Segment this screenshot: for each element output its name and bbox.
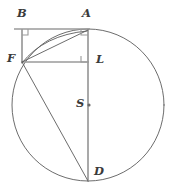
arc-FA xyxy=(22,31,87,63)
point-label-B: B xyxy=(17,8,27,20)
point-label-A: A xyxy=(82,8,91,20)
right-angle-marker-B xyxy=(22,29,28,35)
point-label-F: F xyxy=(7,53,15,65)
point-label-D: D xyxy=(94,166,104,178)
right-angle-marker-L xyxy=(81,56,88,62)
figure-canvas xyxy=(0,0,173,194)
center-dot xyxy=(87,103,90,106)
segment-FD xyxy=(22,62,88,181)
point-label-L: L xyxy=(96,54,104,66)
point-label-S: S xyxy=(76,98,84,110)
segment-FA xyxy=(22,30,88,62)
geometry-figure: B A F L S D xyxy=(0,0,173,194)
